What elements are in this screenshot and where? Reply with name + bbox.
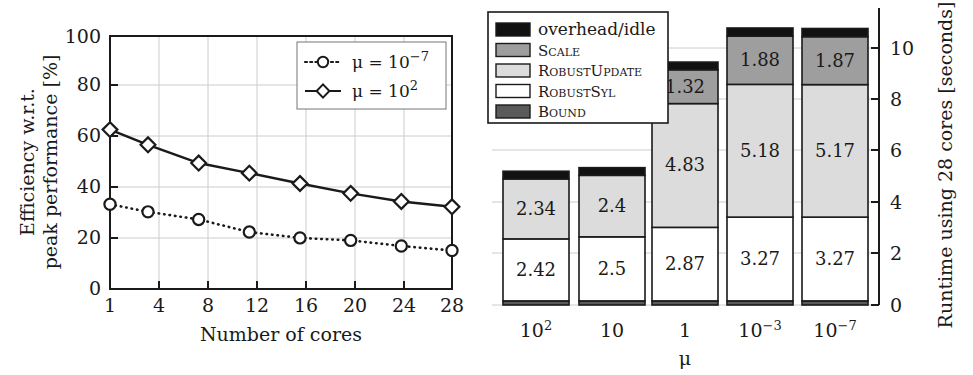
bar-segment-value: 3.27 [740,248,780,269]
bar-category-label: 102 [520,318,552,341]
data-point-marker [345,235,356,246]
y-axis-tick-labels: 0 20 40 60 80 100 [65,25,101,299]
bar-segment-value: 5.17 [815,140,855,161]
y-tick-label: 6 [890,139,902,161]
y-tick-label: 0 [89,277,101,299]
bar-category-label: 10−7 [813,318,856,341]
efficiency-line-chart: Efficiency w.r.t. peak performance [%] 0… [0,0,480,375]
data-point-marker [104,199,115,210]
bar-group: 3.275.181.88 [727,28,793,305]
data-point-marker [293,176,308,191]
right-axis [871,8,879,305]
data-point-marker [446,245,457,256]
right-axis-tick-labels: 0 2 4 6 8 10 [890,37,914,316]
x-tick-marks [110,281,452,289]
y-tick-label: 2 [890,242,902,264]
x-tick-label: 16 [294,294,318,316]
y-tick-label: 20 [77,226,101,248]
bar-category-label: 10 [600,319,624,341]
bar-segment-value: 1.87 [815,50,855,71]
bar-segment-value: 1.32 [665,76,705,97]
bar-chart-legend: overhead/idleScaleRobustUpdateRobustSylB… [488,12,668,123]
series-mu-1e-7 [104,199,457,256]
legend-swatch-scale [496,44,530,57]
bar-segment-value: 2.5 [598,258,627,279]
legend-swatch-bound [496,105,530,118]
x-tick-label: 8 [202,294,214,316]
bar-segment-value: 4.83 [665,154,705,175]
bar-segment-value: 5.18 [740,140,780,161]
efficiency-line-chart-panel: Efficiency w.r.t. peak performance [%] 0… [0,0,480,375]
x-axis-title: Number of cores [200,323,362,345]
data-point-marker [141,137,156,152]
y-axis-title: Efficiency w.r.t. peak performance [%] [16,55,61,270]
bar-group: 2.422.34 [503,171,569,305]
y-tick-label: 80 [77,73,101,95]
bar-x-axis-title: μ [679,347,691,369]
y-axis-title-line1: Efficiency w.r.t. [16,88,38,236]
legend-label-bound: Bound [538,103,586,121]
legend-label-scale: Scale [538,42,580,60]
y-axis-title-line2: peak performance [%] [39,55,61,270]
y-tick-label: 4 [890,191,902,213]
data-point-marker [343,186,358,201]
x-tick-label: 1 [104,294,116,316]
bar-segment-overheadidle [503,171,569,179]
data-point-marker [445,199,460,214]
bar-group: 2.52.4 [579,168,645,305]
legend-label-robustsyl: RobustSyl [538,83,616,101]
x-tick-label: 24 [392,294,416,316]
data-point-marker [193,214,204,225]
bar-segment-overheadidle [802,29,868,37]
data-point-marker [242,166,257,181]
data-point-marker [103,122,118,137]
x-tick-label: 20 [343,294,367,316]
legend-label-mu-1e2: μ = 102 [352,78,418,101]
y-tick-label: 8 [890,88,902,110]
bar-segment-value: 2.34 [516,198,556,219]
y-tick-label: 10 [890,37,914,59]
bar-segment-value: 2.4 [598,195,627,216]
legend-label-robustupdate: RobustUpdate [538,62,642,80]
y-tick-label: 60 [77,124,101,146]
bar-segment-value: 2.42 [516,259,556,280]
x-tick-label: 4 [153,294,165,316]
y-tick-label: 0 [890,294,902,316]
data-point-marker [244,226,255,237]
data-point-marker [294,232,305,243]
legend-swatch-robustupdate [496,64,530,77]
y-tick-marks [110,36,118,289]
y-tick-label: 100 [65,25,101,47]
y-tick-label: 40 [77,175,101,197]
bar-segment-value: 3.27 [815,248,855,269]
right-axis-title: Runtime using 28 cores [seconds] [934,2,956,329]
data-point-marker [142,206,153,217]
data-point-marker [191,156,206,171]
bar-segment-value: 1.88 [740,49,780,70]
category-labels-layer: 10210110−310−7 [520,318,857,341]
bar-category-label: 10−3 [738,318,781,341]
bar-segment-overheadidle [579,168,645,176]
legend-swatch-robustsyl [496,85,530,98]
x-tick-label: 12 [245,294,269,316]
bar-segment-overheadidle [727,28,793,36]
figure-container: Efficiency w.r.t. peak performance [%] 0… [0,0,973,375]
data-series-layer [103,122,460,256]
x-axis-tick-labels: 1 4 8 12 16 20 24 28 [104,294,464,316]
bar-category-label: 1 [679,319,691,341]
data-point-marker [396,240,407,251]
runtime-stacked-bar-chart: 2.422.342.52.42.874.831.323.275.181.883.… [480,0,973,375]
legend-label-overheadidle: overhead/idle [538,19,656,39]
data-point-marker [394,194,409,209]
bar-group: 3.275.171.87 [802,29,868,305]
bar-segment-value: 2.87 [665,253,705,274]
chart-legend: μ = 10−7 μ = 102 [297,42,446,109]
legend-swatch-overheadidle [496,23,530,36]
x-tick-label: 28 [440,294,464,316]
runtime-stacked-bar-chart-panel: 2.422.342.52.42.874.831.323.275.181.883.… [480,0,973,375]
